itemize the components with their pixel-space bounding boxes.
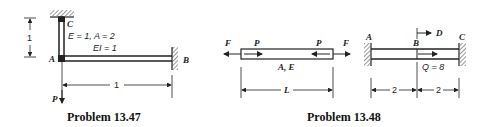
load-label-p: P bbox=[52, 94, 58, 104]
bar-properties: A, E bbox=[277, 62, 295, 72]
force-label-right: F bbox=[342, 38, 349, 48]
node-label-a-right: A bbox=[365, 32, 372, 42]
internal-label-right: P bbox=[316, 38, 322, 48]
force-label-left: F bbox=[224, 38, 231, 48]
dimension-left: 2 bbox=[392, 85, 397, 95]
joint-a-icon bbox=[58, 55, 65, 62]
fixed-support-c-icon bbox=[50, 10, 74, 16]
member-ac-properties: E = 1, A = 2 bbox=[68, 31, 115, 41]
caption-problem-13-47: Problem 13.47 bbox=[67, 110, 141, 124]
node-label-a: A bbox=[48, 54, 55, 64]
problem-13-48-fixed-bar-diagram: D A B C Q = 8 2 2 Problem 13.48 bbox=[307, 28, 466, 124]
dimension-right: 2 bbox=[436, 85, 441, 95]
vertical-dimension: 1 bbox=[27, 33, 32, 43]
internal-label-left: P bbox=[254, 38, 260, 48]
fixed-support-c-right-icon bbox=[460, 43, 466, 66]
node-label-b-right: B bbox=[412, 38, 419, 48]
node-label-c-right: C bbox=[459, 32, 466, 42]
length-dimension: L bbox=[283, 85, 290, 95]
figure-canvas: 1 1 P C A B E = 1, A = 2 EI = 1 Problem … bbox=[0, 0, 485, 127]
member-ac bbox=[59, 17, 64, 59]
caption-problem-13-48: Problem 13.48 bbox=[307, 110, 381, 124]
node-label-b: B bbox=[182, 55, 189, 65]
fixed-support-a-icon bbox=[364, 43, 370, 66]
fixed-support-b-icon bbox=[172, 47, 178, 70]
load-q-label: Q = 8 bbox=[422, 62, 444, 72]
member-ab-properties: EI = 1 bbox=[93, 43, 117, 53]
problem-13-48-bar-diagram: F P P F A, E L bbox=[224, 38, 350, 98]
problem-13-47-diagram: 1 1 P C A B E = 1, A = 2 EI = 1 Problem … bbox=[24, 10, 189, 124]
horizontal-dimension: 1 bbox=[114, 80, 119, 90]
node-label-c: C bbox=[67, 19, 74, 29]
displacement-label: D bbox=[435, 28, 443, 38]
